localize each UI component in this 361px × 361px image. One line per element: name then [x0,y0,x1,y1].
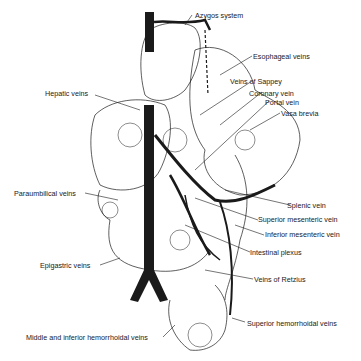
label-azygos-system: Azygos system [195,12,243,19]
label-vasa-brevia: Vasa brevia [281,110,318,117]
label-superior-hemorrhoidal-veins: Superior hemorrhoidal veins [247,320,337,327]
rectum-outline [169,285,227,350]
label-coronary-vein: Coronary vein [249,90,294,97]
vena-cava [145,12,154,52]
label-intestinal-plexus: Intestinal plexus [250,249,302,256]
label-middle-inferior-hemorrhoidal-veins: Middle and inferior hemorrhoidal veins [26,334,148,341]
label-hepatic-veins: Hepatic veins [45,90,88,97]
label-esophageal-veins: Esophageal veins [253,53,310,60]
label-superior-mesenteric-vein: Superior mesenteric vein [258,216,338,223]
label-inferior-mesenteric-vein: Inferior mesenteric vein [265,231,340,238]
inferior-mesenteric-vein [220,202,232,315]
label-veins-of-sappey: Veins of Sappey [230,78,282,85]
inferior-vena-cava [144,105,154,275]
label-portal-vein: Portal vein [265,99,299,106]
liver-outline [91,100,171,190]
label-epigastric-veins: Epigastric veins [40,262,90,269]
label-veins-of-retzius: Veins of Retzius [254,276,306,283]
portal-vein [155,135,275,201]
stomach-outline [190,47,300,195]
label-splenic-vein: Splenic vein [287,202,326,209]
label-paraumbilical-veins: Paraumbilical veins [14,190,76,197]
